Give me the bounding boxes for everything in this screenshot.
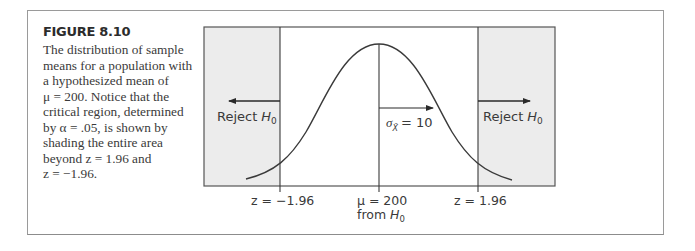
mu-label: μ = 200 bbox=[357, 193, 407, 208]
z-left-label: z = −1.96 bbox=[251, 193, 314, 208]
distribution-chart: RejectH0 RejectH0 σX̄= 10 z = −1.96 μ = … bbox=[0, 0, 695, 251]
mu-from-label: fromH0 bbox=[357, 207, 405, 224]
sigma-label: σX̄= 10 bbox=[386, 115, 432, 133]
critical-region-left bbox=[204, 27, 280, 186]
reject-left-label: RejectH0 bbox=[217, 109, 277, 126]
reject-right-label: RejectH0 bbox=[483, 109, 543, 126]
critical-region-right bbox=[478, 27, 555, 186]
z-right-label: z = 1.96 bbox=[454, 193, 507, 208]
